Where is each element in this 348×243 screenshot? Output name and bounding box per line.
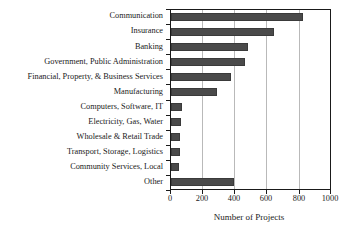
y-tick xyxy=(166,115,170,116)
bar-chart: Communication Insurance Banking Governme… xyxy=(0,0,348,243)
bar xyxy=(171,88,217,96)
y-axis-label: Community Services, Local xyxy=(0,160,167,175)
bar-row xyxy=(171,25,331,40)
y-tick xyxy=(166,145,170,146)
bar-row xyxy=(171,10,331,25)
y-axis-label: Insurance xyxy=(0,24,167,39)
bar xyxy=(171,103,182,111)
bar xyxy=(171,163,179,171)
x-axis-labels: 0 200 400 600 800 1000 xyxy=(0,195,348,207)
bar xyxy=(171,28,274,36)
y-tick xyxy=(166,69,170,70)
y-tick xyxy=(166,24,170,25)
y-axis-label: Manufacturing xyxy=(0,84,167,99)
bar-row xyxy=(171,174,331,189)
bar xyxy=(171,178,234,186)
y-tick xyxy=(166,84,170,85)
y-tick xyxy=(166,9,170,10)
bar xyxy=(171,133,180,141)
x-axis-title: Number of Projects xyxy=(0,212,348,222)
y-axis-ticks xyxy=(166,9,170,190)
bar-row xyxy=(171,40,331,55)
bar-row xyxy=(171,114,331,129)
bar-row xyxy=(171,55,331,70)
x-axis-ticks xyxy=(170,190,331,194)
bar xyxy=(171,148,180,156)
y-tick xyxy=(166,100,170,101)
y-axis-labels: Communication Insurance Banking Governme… xyxy=(0,9,167,190)
y-tick xyxy=(166,54,170,55)
y-axis-label: Financial, Property, & Business Services xyxy=(0,69,167,84)
bar xyxy=(171,118,181,126)
bar xyxy=(171,43,248,51)
y-tick xyxy=(166,39,170,40)
y-tick xyxy=(166,175,170,176)
bar-row xyxy=(171,70,331,85)
y-axis-label: Wholesale & Retail Trade xyxy=(0,130,167,145)
bar xyxy=(171,58,245,66)
bar-row xyxy=(171,129,331,144)
bar-row xyxy=(171,144,331,159)
x-tick-label: 1000 xyxy=(310,195,348,203)
y-axis-label: Computers, Software, IT xyxy=(0,99,167,114)
y-tick xyxy=(166,160,170,161)
y-axis-label: Other xyxy=(0,175,167,190)
bar-row xyxy=(171,85,331,100)
y-tick xyxy=(166,130,170,131)
bar xyxy=(171,73,231,81)
x-axis-title-text: Number of Projects xyxy=(64,212,284,222)
bar-row xyxy=(171,159,331,174)
y-axis-label: Banking xyxy=(0,39,167,54)
bar-row xyxy=(171,100,331,115)
bar-series xyxy=(171,10,331,189)
y-axis-label: Electricity, Gas, Water xyxy=(0,115,167,130)
y-axis-label: Transport, Storage, Logistics xyxy=(0,145,167,160)
bar xyxy=(171,13,303,21)
y-axis-label: Communication xyxy=(0,9,167,24)
y-axis-label: Government, Public Administration xyxy=(0,54,167,69)
